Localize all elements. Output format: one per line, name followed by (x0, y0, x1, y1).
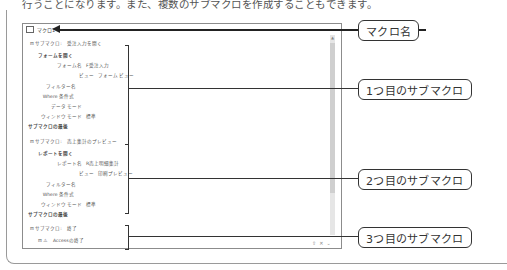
arg-label: ビュー (38, 170, 94, 176)
arg-label: フィルター名 (38, 83, 76, 89)
move-down-icon[interactable]: ⌄ (326, 240, 333, 246)
callout-submacro2: 2つ目のサブマクロ (358, 169, 472, 190)
arg-label: ウィンドウ モード (38, 201, 82, 207)
arg-value[interactable]: 標準 (86, 114, 96, 119)
leader-line-1 (129, 88, 358, 89)
collapse-icon[interactable]: ⊟ (38, 238, 42, 243)
submacro-end: サブマクロの最後 (28, 123, 68, 129)
arg-label: フォーム名 (38, 62, 82, 68)
collapse-icon[interactable]: ⊟ (30, 41, 34, 46)
macro-tab[interactable]: マクロ1 (26, 26, 55, 33)
warning-icon: ⚠ (43, 238, 47, 243)
arg-value[interactable]: 標準 (86, 202, 96, 207)
arg-label: Where 条件式 (38, 93, 74, 99)
action-name[interactable]: レポートを開く (38, 150, 73, 156)
submacro-header[interactable]: ⊟ サブマクロ: 受注入力を開く (30, 40, 102, 46)
vertical-scrollbar[interactable]: ▲ (330, 35, 335, 235)
row-action-icons: ⇧✕⌄ (312, 240, 334, 246)
callout-submacro3: 3つ目のサブマクロ (358, 227, 472, 248)
leader-line-2 (129, 178, 358, 179)
leader-line-3 (129, 236, 358, 237)
arg-label: ビュー (38, 72, 94, 78)
collapse-icon[interactable]: ⊟ (30, 226, 34, 231)
submacro-end: サブマクロの最後 (28, 211, 68, 217)
submacro-header[interactable]: ⊟ サブマクロ: 売上集計のプレビュー (30, 138, 117, 144)
scrollbar-thumb[interactable] (330, 43, 335, 193)
arg-label: フィルター名 (38, 181, 76, 187)
action-name[interactable]: フォームを開く (38, 52, 73, 58)
arg-label: データ モード (38, 103, 82, 109)
callout-submacro1: 1つ目のサブマクロ (358, 79, 472, 100)
bracket-submacro1 (125, 45, 129, 145)
arg-value[interactable]: R売上明細集計 (86, 161, 119, 166)
arg-label: レポート名 (38, 160, 82, 166)
arg-label: ウィンドウ モード (38, 113, 82, 119)
submacro-header[interactable]: ⊟ サブマクロ: 終了 (30, 225, 77, 231)
arg-value[interactable]: F受注入力 (86, 63, 109, 68)
collapse-icon[interactable]: ⊟ (30, 139, 34, 144)
callout-macro-name: マクロ名 (358, 20, 419, 41)
action-name: Accessの終了 (53, 238, 84, 243)
action-row[interactable]: ⊟ ⚠ Accessの終了 (38, 237, 84, 243)
bracket-submacro3 (125, 225, 129, 250)
bracket-submacro2 (125, 144, 129, 214)
arg-label: Where 条件式 (38, 191, 74, 197)
scroll-up-icon[interactable]: ▲ (330, 35, 335, 40)
macro-icon (26, 26, 34, 33)
